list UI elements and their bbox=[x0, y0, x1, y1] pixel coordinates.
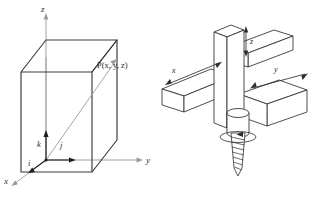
j-vector-arrowhead bbox=[69, 157, 76, 162]
post-left-face bbox=[214, 32, 227, 128]
k-vector-arrowhead bbox=[43, 130, 48, 137]
y-axis-label: y bbox=[145, 155, 150, 165]
cartesian-box-diagram: z y x k j i P(x, y, z) bbox=[0, 0, 157, 198]
beam-group bbox=[162, 25, 307, 138]
screw bbox=[220, 132, 256, 177]
cartesian-box-svg: z y x k j i P(x, y, z) bbox=[0, 0, 157, 198]
y-axis-label: y bbox=[273, 65, 278, 74]
point-p-label: P(x, y, z) bbox=[97, 60, 128, 70]
position-vector-line bbox=[46, 63, 115, 161]
j-unit-vector-label: j bbox=[59, 140, 63, 150]
box-front-face bbox=[21, 72, 92, 172]
i-unit-vector-label: i bbox=[28, 158, 31, 168]
y-axis-arrowhead bbox=[137, 158, 144, 163]
k-unit-vector-label: k bbox=[37, 139, 41, 149]
screw-boss-top bbox=[227, 109, 249, 118]
wooden-beams-screw-diagram: z x y bbox=[157, 0, 313, 198]
z-axis-indicator-arrowhead-up bbox=[244, 26, 248, 33]
x-axis-label: x bbox=[171, 66, 176, 75]
wooden-beams-svg: z x y bbox=[157, 0, 313, 198]
z-axis-label: z bbox=[40, 4, 45, 14]
x-axis-label: x bbox=[3, 176, 8, 186]
axis-lines bbox=[14, 16, 140, 184]
figure-root: z y x k j i P(x, y, z) bbox=[0, 0, 313, 198]
origin-point bbox=[44, 158, 47, 161]
position-vector bbox=[46, 59, 117, 160]
